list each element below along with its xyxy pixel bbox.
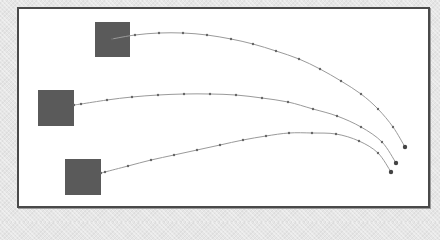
trajectory-1-waypoint [182, 32, 184, 34]
trajectory-1-waypoint [340, 80, 342, 82]
trajectory-3-waypoint [242, 139, 244, 141]
trajectory-2-waypoint [312, 108, 314, 110]
trajectory-1-waypoint [111, 38, 113, 40]
trajectory-3-curve [101, 133, 391, 173]
trajectory-2-waypoint [287, 101, 289, 103]
trajectory-1-endpoint [403, 145, 407, 149]
trajectory-2-endpoint [394, 161, 398, 165]
trajectory-2-curve [74, 94, 396, 163]
trajectory-3-waypoint [335, 133, 337, 135]
trajectory-1-waypoint [319, 68, 321, 70]
trajectory-2-waypoint [80, 103, 82, 105]
trajectory-3-waypoint [100, 172, 102, 174]
trajectory-2-waypoint [336, 115, 338, 117]
trajectory-1-waypoint [360, 93, 362, 95]
trajectory-2-waypoint [360, 126, 362, 128]
trajectory-2-waypoint [235, 94, 237, 96]
trajectory-1-waypoint [298, 58, 300, 60]
trajectory-2-waypoint [261, 97, 263, 99]
square-2 [38, 90, 74, 126]
trajectory-1-waypoint [134, 34, 136, 36]
square-3 [65, 159, 101, 195]
trajectory-3-waypoint [288, 132, 290, 134]
trajectory-2-waypoint [209, 93, 211, 95]
trajectory-2-waypoint [157, 94, 159, 96]
trajectory-2-waypoint [183, 93, 185, 95]
trajectory-3-waypoint [358, 140, 360, 142]
trajectory-3-waypoint [311, 132, 313, 134]
trajectory-1-waypoint [377, 108, 379, 110]
trajectory-1-waypoint [392, 126, 394, 128]
trajectory-1-waypoint [206, 34, 208, 36]
trajectory-3-waypoint [104, 171, 106, 173]
trajectory-2-waypoint [381, 141, 383, 143]
trajectory-3-waypoint [173, 154, 175, 156]
trajectory-3-waypoint [219, 144, 221, 146]
trajectory-2-waypoint [106, 99, 108, 101]
trajectory-1-waypoint [158, 32, 160, 34]
trajectory-diagram [0, 0, 440, 222]
trajectory-1-waypoint [252, 43, 254, 45]
trajectory-1-waypoint [230, 38, 232, 40]
trajectory-3-waypoint [265, 135, 267, 137]
trajectory-2-waypoint [131, 96, 133, 98]
trajectory-3-waypoint [150, 159, 152, 161]
trajectory-3-waypoint [127, 165, 129, 167]
trajectory-3-endpoint [389, 170, 393, 174]
trajectory-2-waypoint [73, 104, 75, 106]
trajectory-1-waypoint [275, 50, 277, 52]
trajectory-3-waypoint [196, 149, 198, 151]
trajectory-3-waypoint [377, 152, 379, 154]
trajectory-1-curve [112, 33, 405, 147]
